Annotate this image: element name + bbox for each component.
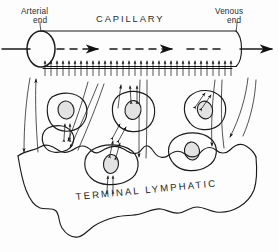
interstitial-cell	[184, 90, 225, 129]
interstitial-cell	[47, 93, 87, 139]
diagram-svg: Arterial end CAPILLARY Venous end TERMIN…	[0, 0, 278, 252]
arterial-end-label-line2: end	[33, 16, 47, 25]
venous-end-label-line2: end	[227, 16, 241, 25]
arterial-end-label-line1: Arterial	[21, 7, 48, 16]
capillary-label: CAPILLARY	[96, 13, 165, 24]
interstitial-flow-lines	[24, 78, 256, 158]
interstitial-cell	[85, 141, 138, 191]
filtration-arrows	[43, 61, 232, 76]
interstitial-cell	[112, 86, 154, 140]
venous-end-label-line1: Venous	[215, 7, 243, 16]
capillary-vessel	[27, 22, 242, 67]
terminal-lymphatic-label: TERMINAL LYMPHATIC	[75, 177, 218, 202]
figure-canvas: Arterial end CAPILLARY Venous end TERMIN…	[0, 0, 278, 252]
